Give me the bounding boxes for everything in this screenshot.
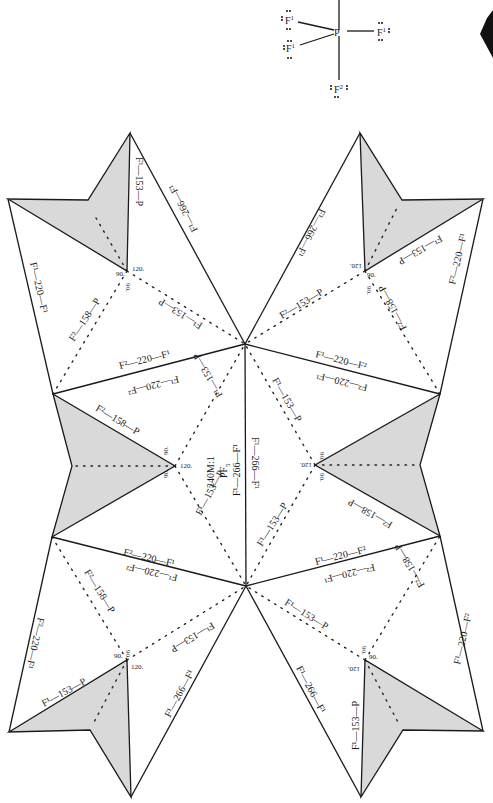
label-r-f1-153-p-upper: F¹—153—P	[270, 376, 304, 424]
label-r-f2-158-p-inv: F²—158—P	[376, 283, 409, 332]
tab-bottom-right	[361, 660, 483, 797]
label-r-f2-158-p-low-inv: F²—158—P	[392, 541, 427, 589]
pf5-net-diagram: P F1 F1 F1 F2	[0, 0, 493, 803]
angle-120-tr: 120.	[350, 262, 363, 270]
label-f1-266-f1-center-left: F¹—266—F¹	[231, 444, 242, 496]
label-r-f1-153-p-lower: F¹—153—P	[254, 500, 290, 548]
atom-p: P	[334, 27, 340, 38]
angle-90-ml-a: 90.	[162, 446, 170, 455]
label-f1-153-p: F¹—153—P	[134, 157, 145, 207]
angle-90-mr-b: 90.	[318, 473, 326, 482]
angle-90-bl-b: 90.	[124, 650, 132, 659]
angle-120-tl: 120.	[132, 265, 145, 273]
angle-120-ml: 120.	[180, 462, 193, 470]
angle-90-br-b: 90.	[360, 646, 368, 655]
angle-90-tr-b: 90.	[365, 286, 373, 295]
label-f1-153-p-low-inv: F¹—153—P	[168, 620, 216, 655]
label-f1-266-f1-center-right: F¹—266—F¹	[250, 437, 261, 489]
label-r-f2-220-f1-lower-inv: F²—220—F¹	[323, 562, 376, 585]
model-formula: PF5	[218, 463, 232, 478]
label-r-f1-153-p-low: F¹—153—P	[283, 596, 331, 632]
angle-120-br: 120.	[348, 665, 361, 673]
angle-90-mr-a: 90.	[318, 452, 326, 461]
label-f1-220-f1: F¹—220—F¹	[28, 261, 50, 314]
label-f2-158-p-low: F²—158—P	[82, 567, 118, 615]
label-r-f1-266-f1: F¹—266—F¹	[295, 207, 328, 258]
angle-90-bl-a: 90.	[114, 652, 123, 660]
label-r-f1-220-f2-side: F¹—220—F²	[451, 612, 473, 665]
label-f1-220-f2-inv: F¹—220—F²	[127, 374, 180, 397]
page-corner-mark	[480, 10, 493, 58]
angle-90-tl-a: 90.	[116, 270, 125, 278]
angle-120-mr: 120.	[300, 461, 313, 469]
label-f2-220-f1: F²—220—F¹	[118, 348, 171, 371]
atom-f1-right: F1	[377, 26, 387, 38]
tab-top-left	[8, 133, 130, 271]
label-f2-158-p: F²—158—P	[66, 296, 102, 344]
label-f1-266-f1-low: F¹—266—F¹	[162, 668, 196, 719]
label-r-f1-153-p-tab: F¹—153—P	[350, 700, 361, 750]
angle-90-tr-a: 90.	[367, 271, 376, 279]
angle-90-br-a: 90.	[369, 653, 378, 661]
center-labels: 240M:1 PF5 F¹—266—F¹ F¹—266—F¹	[205, 437, 261, 496]
tab-bottom-left	[9, 660, 131, 797]
atom-f1-upper: F1	[285, 14, 295, 26]
label-r-f1-266-f1-low: F¹—266—F¹	[294, 664, 328, 715]
label-f1-153-p-upper: F¹—153—P	[190, 351, 224, 399]
lewis-structure: P F1 F1 F1 F2	[281, 0, 390, 98]
angle-90-tl-b: 90.	[124, 283, 132, 292]
label-f2-220-f1-side: F²—220—F¹	[24, 617, 46, 670]
angle-120-bl: 120.	[131, 663, 144, 671]
angle-90-ml-b: 90.	[162, 469, 170, 478]
atom-f1-lower: F1	[286, 42, 296, 54]
atom-f2-bottom: F2	[334, 83, 344, 95]
model-id: 240M:1	[205, 456, 216, 488]
label-r-f1-220-f2-lower: F¹—220—F²	[314, 544, 367, 567]
label-r-f2-153-p: F²—153—P	[277, 286, 325, 321]
